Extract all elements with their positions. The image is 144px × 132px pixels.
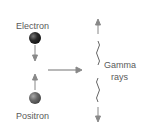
electron-label: Electron bbox=[16, 21, 49, 31]
electron-arrow-icon bbox=[33, 45, 38, 61]
electron-sphere-icon bbox=[29, 32, 41, 44]
gamma-wave-upper-icon bbox=[97, 41, 100, 65]
positron-arrow-icon bbox=[33, 74, 38, 90]
gamma-rays-label-line2: rays bbox=[111, 72, 128, 82]
gamma-rays-label-line1: Gamma bbox=[104, 60, 136, 70]
positron-label: Positron bbox=[16, 111, 49, 121]
gamma-up-arrow-icon bbox=[96, 19, 101, 34]
gamma-down-arrow-icon bbox=[96, 107, 101, 122]
gamma-wave-lower-icon bbox=[97, 78, 100, 102]
positron-sphere-icon bbox=[29, 92, 41, 104]
reaction-arrow-icon bbox=[48, 67, 82, 73]
